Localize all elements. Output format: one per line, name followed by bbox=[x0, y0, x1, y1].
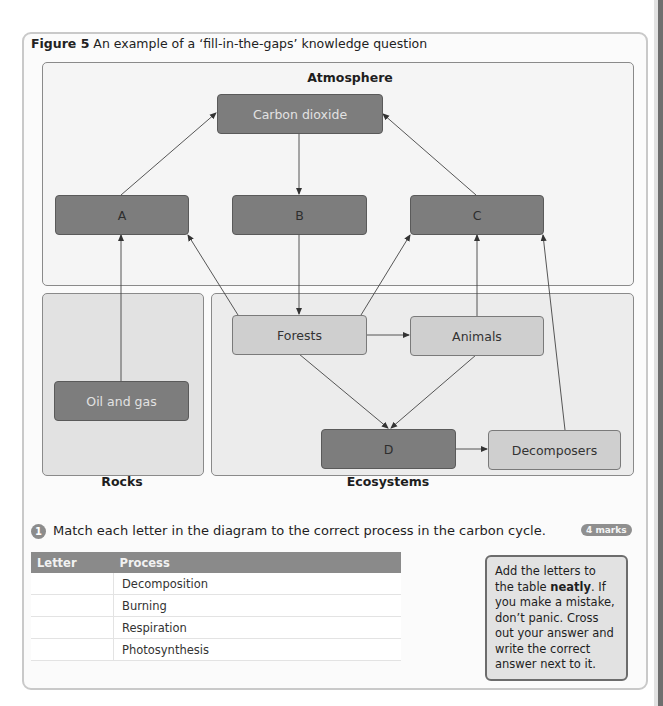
rocks-label: Rocks bbox=[72, 474, 172, 489]
node-a-blank: A bbox=[55, 195, 189, 235]
letter-cell-input[interactable] bbox=[31, 573, 114, 595]
tip-box: Add the letters to the table neatly. If … bbox=[485, 555, 628, 681]
letter-cell-input[interactable] bbox=[31, 595, 114, 617]
table-row: Photosynthesis bbox=[31, 639, 401, 661]
table-row: Respiration bbox=[31, 617, 401, 639]
node-forests: Forests bbox=[232, 315, 367, 355]
process-cell: Photosynthesis bbox=[114, 639, 402, 661]
process-cell: Respiration bbox=[114, 617, 402, 639]
atmosphere-label: Atmosphere bbox=[300, 70, 400, 85]
header-letter: Letter bbox=[31, 552, 114, 573]
node-animals: Animals bbox=[410, 316, 544, 356]
header-process: Process bbox=[114, 552, 402, 573]
node-d-blank: D bbox=[321, 429, 456, 469]
page-edge bbox=[658, 0, 663, 706]
question-text: Match each letter in the diagram to the … bbox=[53, 523, 546, 538]
node-decomposers: Decomposers bbox=[488, 430, 621, 470]
process-cell: Decomposition bbox=[114, 573, 402, 595]
ecosystems-label: Ecosystems bbox=[338, 474, 438, 489]
table-row: Burning bbox=[31, 595, 401, 617]
marks-badge: 4 marks bbox=[581, 524, 632, 536]
question-number-badge: 1 bbox=[31, 524, 46, 539]
node-carbon-dioxide: Carbon dioxide bbox=[217, 94, 383, 134]
table-header-row: Letter Process bbox=[31, 552, 401, 573]
letter-cell-input[interactable] bbox=[31, 617, 114, 639]
node-b-blank: B bbox=[232, 195, 367, 235]
table-row: Decomposition bbox=[31, 573, 401, 595]
node-oil-and-gas: Oil and gas bbox=[54, 381, 189, 421]
node-c-blank: C bbox=[410, 195, 544, 235]
letter-cell-input[interactable] bbox=[31, 639, 114, 661]
process-table: Letter Process Decomposition Burning Res… bbox=[31, 552, 401, 661]
figure-caption: An example of a ‘fill-in-the-gaps’ knowl… bbox=[93, 36, 427, 51]
process-cell: Burning bbox=[114, 595, 402, 617]
tip-text-bold: neatly bbox=[550, 580, 591, 594]
figure-title: Figure 5 An example of a ‘fill-in-the-ga… bbox=[31, 36, 427, 51]
figure-label: Figure 5 bbox=[31, 36, 89, 51]
